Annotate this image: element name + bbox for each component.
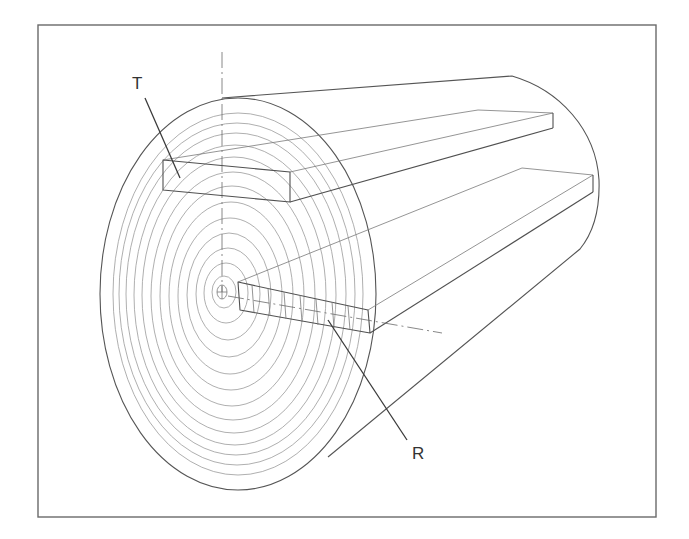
radial-leader-line <box>328 320 407 440</box>
radial-board <box>238 168 593 333</box>
log-diagram: T R <box>0 0 689 539</box>
tangential-board <box>163 110 553 202</box>
center-axis-horizontal <box>228 296 442 333</box>
diagram-frame <box>38 25 656 517</box>
radial-label: R <box>412 444 424 463</box>
tangential-label: T <box>132 74 142 93</box>
